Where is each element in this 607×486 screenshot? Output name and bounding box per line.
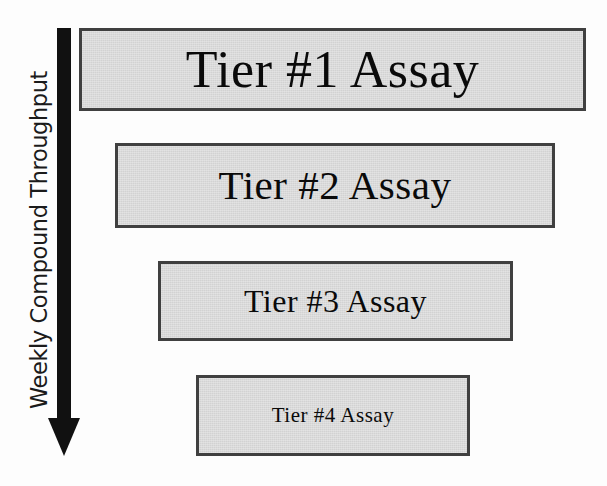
- tier-box-4-label: Tier #4 Assay: [272, 405, 394, 426]
- diagram-canvas: Weekly Compound Throughput Tier #1 Assay…: [0, 0, 607, 486]
- tier-box-1[interactable]: Tier #1 Assay: [79, 28, 586, 111]
- tier-box-4[interactable]: Tier #4 Assay: [196, 375, 470, 456]
- tier-box-3-label: Tier #3 Assay: [244, 285, 427, 317]
- tier-box-2[interactable]: Tier #2 Assay: [115, 143, 555, 228]
- tier-box-2-label: Tier #2 Assay: [219, 165, 452, 206]
- throughput-arrow-down-icon: [47, 28, 81, 458]
- tier-box-1-label: Tier #1 Assay: [186, 44, 480, 96]
- tier-box-3[interactable]: Tier #3 Assay: [158, 261, 513, 341]
